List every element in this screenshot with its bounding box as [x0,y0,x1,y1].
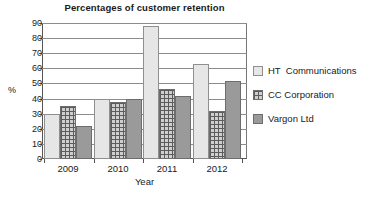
y-tick-label: 10 [26,140,42,149]
bar [225,81,241,159]
y-tick-label: 90 [26,19,42,28]
x-axis: 2009201020112012 [42,159,248,175]
legend-swatch-icon [253,90,263,100]
bar [110,102,126,159]
bar [94,99,110,159]
bar [76,126,92,159]
legend-swatch-icon [253,114,263,124]
x-tick-label-2012: 2012 [193,164,241,174]
y-tick-label: 30 [26,110,42,119]
legend-label: CC Corporation [268,90,334,100]
legend-swatch-icon [253,66,263,76]
legend-item[interactable]: HT Communications [253,59,377,83]
y-tick-label: 70 [26,49,42,58]
y-tick-label: 60 [26,64,42,73]
legend-item[interactable]: CC Corporation [253,83,377,107]
x-tick-mark [143,159,144,163]
x-tick-mark [94,159,95,163]
legend: HT CommunicationsCC CorporationVargon Lt… [253,59,377,131]
bar [209,111,225,159]
legend-item[interactable]: Vargon Ltd [253,107,377,131]
legend-label: HT Communications [268,66,357,76]
x-tick-label-2011: 2011 [143,164,191,174]
x-tick-mark [44,159,45,163]
chart-title: Percentages of customer retention [42,2,247,13]
bar [193,64,209,159]
x-tick-mark [242,159,243,163]
x-tick-mark [193,159,194,163]
bar [44,114,60,159]
bar [159,89,175,159]
x-axis-label: Year [42,177,247,187]
bar [175,96,191,159]
bar-chart: Percentages of customer retention % 0102… [0,0,377,198]
y-tick-label: 80 [26,34,42,43]
x-tick-label-2009: 2009 [44,164,92,174]
bar [126,99,142,159]
plot-area [42,23,247,159]
legend-label: Vargon Ltd [268,114,314,124]
y-tick-label: 0 [26,155,42,164]
x-tick-label-2010: 2010 [94,164,142,174]
y-tick-label: 40 [26,95,42,104]
bar [60,106,76,159]
y-tick-label: 50 [26,79,42,88]
bar [143,26,159,159]
y-tick-label: 20 [26,125,42,134]
y-axis: 0102030405060708090 [0,23,42,159]
gridline [42,23,247,24]
